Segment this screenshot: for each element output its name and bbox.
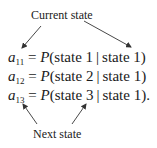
eq-func: P: [40, 68, 49, 84]
eq-equals: =: [28, 68, 36, 84]
equation-a13: a13 = P(state 3|state 1).: [8, 88, 150, 103]
next-state-label: Next state: [33, 128, 81, 140]
eq-arg1: state 2: [55, 68, 94, 84]
eq-close: ): [141, 49, 146, 65]
eq-arg2: state 1: [102, 68, 141, 84]
eq-func: P: [40, 49, 49, 65]
eq-bar: |: [96, 50, 99, 65]
eq-equals: =: [28, 49, 36, 65]
eq-var: a: [8, 68, 16, 84]
arrow-next-to-subscript: [23, 104, 37, 124]
equation-a12: a12 = P(state 2|state 1): [8, 69, 146, 84]
eq-var: a: [8, 87, 16, 103]
eq-close: ): [141, 68, 146, 84]
arrow-next-to-state: [72, 104, 86, 124]
eq-subscript: 13: [16, 95, 25, 105]
eq-equals: =: [28, 87, 36, 103]
eq-arg2: state 1: [102, 87, 141, 103]
eq-arg1: state 1: [54, 49, 93, 65]
equation-a11: a11 = P(state 1|state 1): [8, 50, 146, 65]
eq-func: P: [40, 87, 49, 103]
eq-subscript: 12: [16, 76, 25, 86]
eq-bar: |: [96, 88, 99, 103]
eq-arg2: state 1: [102, 49, 141, 65]
eq-var: a: [8, 49, 16, 65]
eq-bar: |: [96, 69, 99, 84]
eq-subscript: 11: [16, 57, 25, 67]
current-state-label: Current state: [31, 9, 93, 21]
arrow-current-to-subscript: [22, 26, 41, 48]
eq-close: ).: [141, 87, 150, 103]
arrow-current-to-condition: [84, 21, 131, 47]
eq-arg1: state 3: [55, 87, 94, 103]
